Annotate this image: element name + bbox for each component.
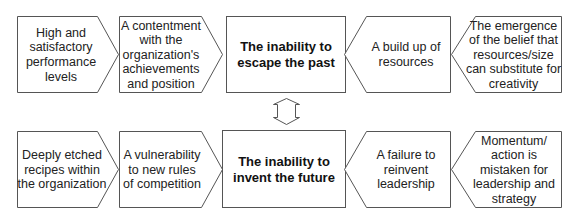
text-line: organization's bbox=[121, 48, 201, 63]
bottom-right-label-1: A failure to reinvent leadership bbox=[362, 132, 450, 208]
text-line: performance bbox=[26, 55, 96, 70]
text-line: High and bbox=[26, 26, 96, 41]
text-line: The inability to bbox=[237, 39, 335, 55]
text-line: invent the future bbox=[233, 170, 335, 186]
text-line: escape the past bbox=[237, 55, 335, 71]
text-line: The emergence bbox=[466, 19, 561, 34]
top-left-label-2: A contentment with the organization's ac… bbox=[119, 17, 203, 93]
bottom-center-label: The inability to invent the future bbox=[222, 131, 346, 208]
text-line: recipes within bbox=[18, 163, 107, 178]
text-line: the organization bbox=[18, 177, 107, 192]
text-line: creativity bbox=[466, 77, 561, 92]
top-right-label-2: The emergence of the belief that resourc… bbox=[464, 17, 563, 93]
text-line: leadership bbox=[376, 177, 435, 192]
text-line: and position bbox=[121, 77, 201, 92]
text-line: Deeply etched bbox=[18, 148, 107, 163]
text-line: satisfactory bbox=[26, 40, 96, 55]
text-line: to new rules bbox=[123, 163, 201, 178]
text-line: resources bbox=[372, 55, 441, 70]
text-line: A build up of bbox=[372, 40, 441, 55]
text-line: The inability to bbox=[233, 154, 335, 170]
double-arrow-icon bbox=[274, 99, 300, 125]
bottom-right-label-2: Momentum/ action is mistaken for leaders… bbox=[466, 132, 562, 208]
text-line: strategy bbox=[473, 192, 555, 207]
text-line: Momentum/ bbox=[473, 134, 555, 149]
text-line: A vulnerability bbox=[123, 148, 201, 163]
text-line: of competition bbox=[123, 177, 201, 192]
text-line: action is bbox=[473, 148, 555, 163]
text-line: with the bbox=[121, 33, 201, 48]
top-left-label-1: High and satisfactory performance levels bbox=[17, 17, 105, 93]
text-line: A contentment bbox=[121, 19, 201, 34]
text-line: leadership and bbox=[473, 177, 555, 192]
text-line: of the belief that bbox=[466, 33, 561, 48]
text-line: reinvent bbox=[376, 163, 435, 178]
top-center-label: The inability to escape the past bbox=[226, 17, 346, 93]
text-line: levels bbox=[26, 70, 96, 85]
text-line: achievements bbox=[121, 62, 201, 77]
bottom-left-label-1: Deeply etched recipes within the organiz… bbox=[17, 132, 107, 208]
bottom-left-label-2: A vulnerability to new rules of competit… bbox=[119, 132, 205, 208]
text-line: resources/size bbox=[466, 48, 561, 63]
text-line: can substitute for bbox=[466, 62, 561, 77]
text-line: A failure to bbox=[376, 148, 435, 163]
top-right-label-1: A build up of resources bbox=[360, 17, 452, 93]
text-line: mistaken for bbox=[473, 163, 555, 178]
